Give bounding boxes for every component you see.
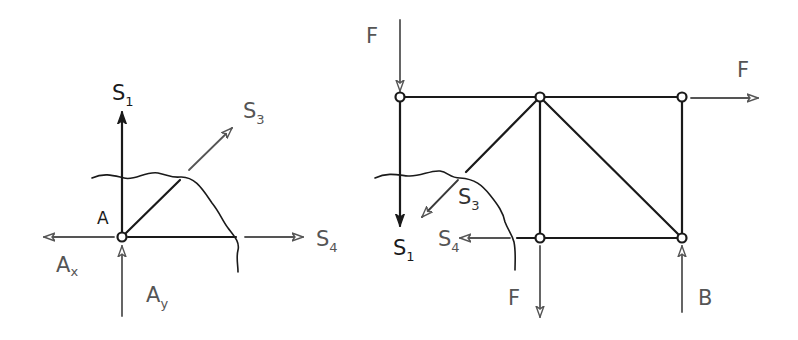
ay-label: Ay: [146, 283, 168, 311]
s4-label: S4: [316, 227, 338, 255]
node-bottom-right: [678, 234, 687, 243]
truss-section: S1 S3 S4 F F F B: [366, 20, 758, 317]
load-f-top-label: F: [366, 24, 378, 48]
s1-label: S1: [112, 81, 134, 109]
load-f-bottom-label: F: [508, 286, 520, 310]
s3-force-arrow: [189, 128, 232, 170]
member-diagonal-right: [544, 101, 678, 234]
s4-member-label: S4: [438, 227, 460, 255]
node-top-middle: [536, 93, 545, 102]
s3-member-label: S3: [458, 185, 480, 213]
node-bottom-middle: [536, 234, 545, 243]
s3-member-arrow: [422, 180, 458, 217]
load-f-right-label: F: [737, 58, 749, 82]
node-top-right: [678, 93, 687, 102]
s1-member-label: S1: [393, 236, 415, 264]
s3-label: S3: [243, 99, 265, 127]
truss-section-figure: S1 S3 S4 Ax Ay A S1 S3: [0, 0, 798, 340]
joint-a-node: [118, 233, 127, 242]
joint-a-label: A: [97, 208, 109, 228]
node-top-left: [396, 93, 405, 102]
member-s3-stub: [126, 180, 180, 233]
joint-a-free-body: S1 S3 S4 Ax Ay A: [44, 81, 338, 316]
section-cut-line: [92, 173, 238, 272]
support-b-label: B: [698, 286, 712, 310]
member-diagonal-s3: [466, 101, 536, 172]
ax-label: Ax: [56, 253, 78, 279]
